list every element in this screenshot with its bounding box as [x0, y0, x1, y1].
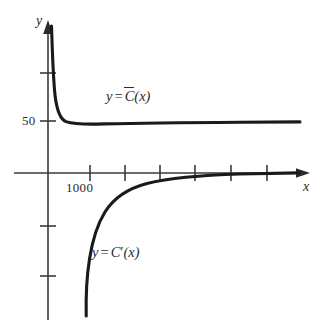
average-cost-curve-label: y=C(x) [106, 89, 150, 104]
average-cost-label-equals: = [112, 88, 124, 104]
y-tick-label-50: 50 [22, 114, 36, 127]
x-axis-label: x [303, 180, 309, 194]
average-cost-label-args: (x) [134, 88, 150, 104]
marginal-cost-label-args: (x) [123, 244, 139, 260]
average-cost-label-func: C [125, 89, 135, 104]
figure-container: y x 50 1000 y=C(x) y=C′(x) [0, 0, 321, 327]
y-axis-label: y [36, 14, 42, 28]
marginal-cost-label-equals: = [98, 244, 110, 260]
cost-functions-plot [0, 0, 321, 327]
x-tick-label-1000: 1000 [66, 181, 93, 194]
marginal-cost-label-func: C [111, 244, 121, 260]
average-cost-curve [52, 26, 301, 124]
marginal-cost-curve-label: y=C′(x) [92, 245, 140, 260]
